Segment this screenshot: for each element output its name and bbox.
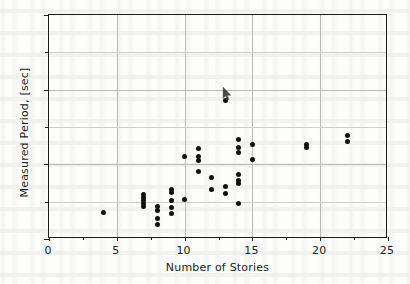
y-tick-minor	[45, 202, 49, 203]
x-axis-title: Number of Stories	[48, 261, 387, 274]
x-tick-minor	[354, 237, 355, 240]
y-tick	[44, 90, 49, 91]
plot-area	[48, 14, 387, 238]
x-tick-label: 5	[112, 244, 119, 257]
gridline-horizontal	[49, 90, 386, 91]
data-point	[196, 169, 201, 174]
gridline-vertical	[252, 15, 253, 237]
data-point	[209, 175, 214, 180]
x-tick-label: 20	[312, 244, 326, 257]
data-point	[345, 133, 350, 138]
data-point	[250, 157, 255, 162]
x-tick	[252, 237, 253, 241]
data-point	[182, 154, 187, 159]
gridline-vertical	[117, 15, 118, 237]
x-tick-minor	[219, 237, 220, 240]
data-point	[209, 187, 214, 192]
data-point	[250, 142, 255, 147]
data-point	[169, 198, 174, 203]
x-tick	[49, 237, 50, 241]
y-tick	[44, 239, 49, 240]
gridline-horizontal	[49, 164, 386, 165]
y-tick-minor	[45, 127, 49, 128]
x-tick-label: 15	[244, 244, 258, 257]
data-point	[236, 172, 241, 177]
x-tick-label: 0	[44, 244, 51, 257]
data-point	[101, 210, 106, 215]
gridline-horizontal-minor	[49, 52, 386, 53]
data-point	[196, 146, 201, 151]
data-point	[345, 139, 350, 144]
scatter-plot-figure: Measured Period, [sec] Number of Stories…	[0, 0, 410, 284]
x-tick	[320, 237, 321, 241]
data-point	[196, 158, 201, 163]
data-point	[169, 211, 174, 216]
data-point	[141, 204, 146, 209]
x-tick	[117, 237, 118, 241]
x-tick-minor	[286, 237, 287, 240]
data-point	[169, 190, 174, 195]
x-tick	[388, 237, 389, 241]
gridline-horizontal-minor	[49, 202, 386, 203]
gridline-vertical	[185, 15, 186, 237]
y-tick	[44, 15, 49, 16]
y-tick	[44, 164, 49, 165]
data-point	[236, 150, 241, 155]
x-tick-minor	[151, 237, 152, 240]
data-point	[155, 216, 160, 221]
data-point	[155, 208, 160, 213]
data-point	[223, 191, 228, 196]
x-tick-label: 10	[176, 244, 190, 257]
data-point	[236, 181, 241, 186]
x-tick-minor	[83, 237, 84, 240]
data-point	[182, 197, 187, 202]
data-point	[236, 201, 241, 206]
gridline-horizontal-minor	[49, 127, 386, 128]
data-point	[223, 98, 228, 103]
data-point	[169, 205, 174, 210]
y-tick-minor	[45, 52, 49, 53]
data-point	[236, 137, 241, 142]
data-point	[155, 222, 160, 227]
x-tick-label: 25	[380, 244, 394, 257]
x-tick	[185, 237, 186, 241]
data-point	[304, 145, 309, 150]
gridline-vertical	[320, 15, 321, 237]
data-point	[223, 184, 228, 189]
y-axis-title: Measured Period, [sec]	[18, 33, 31, 233]
